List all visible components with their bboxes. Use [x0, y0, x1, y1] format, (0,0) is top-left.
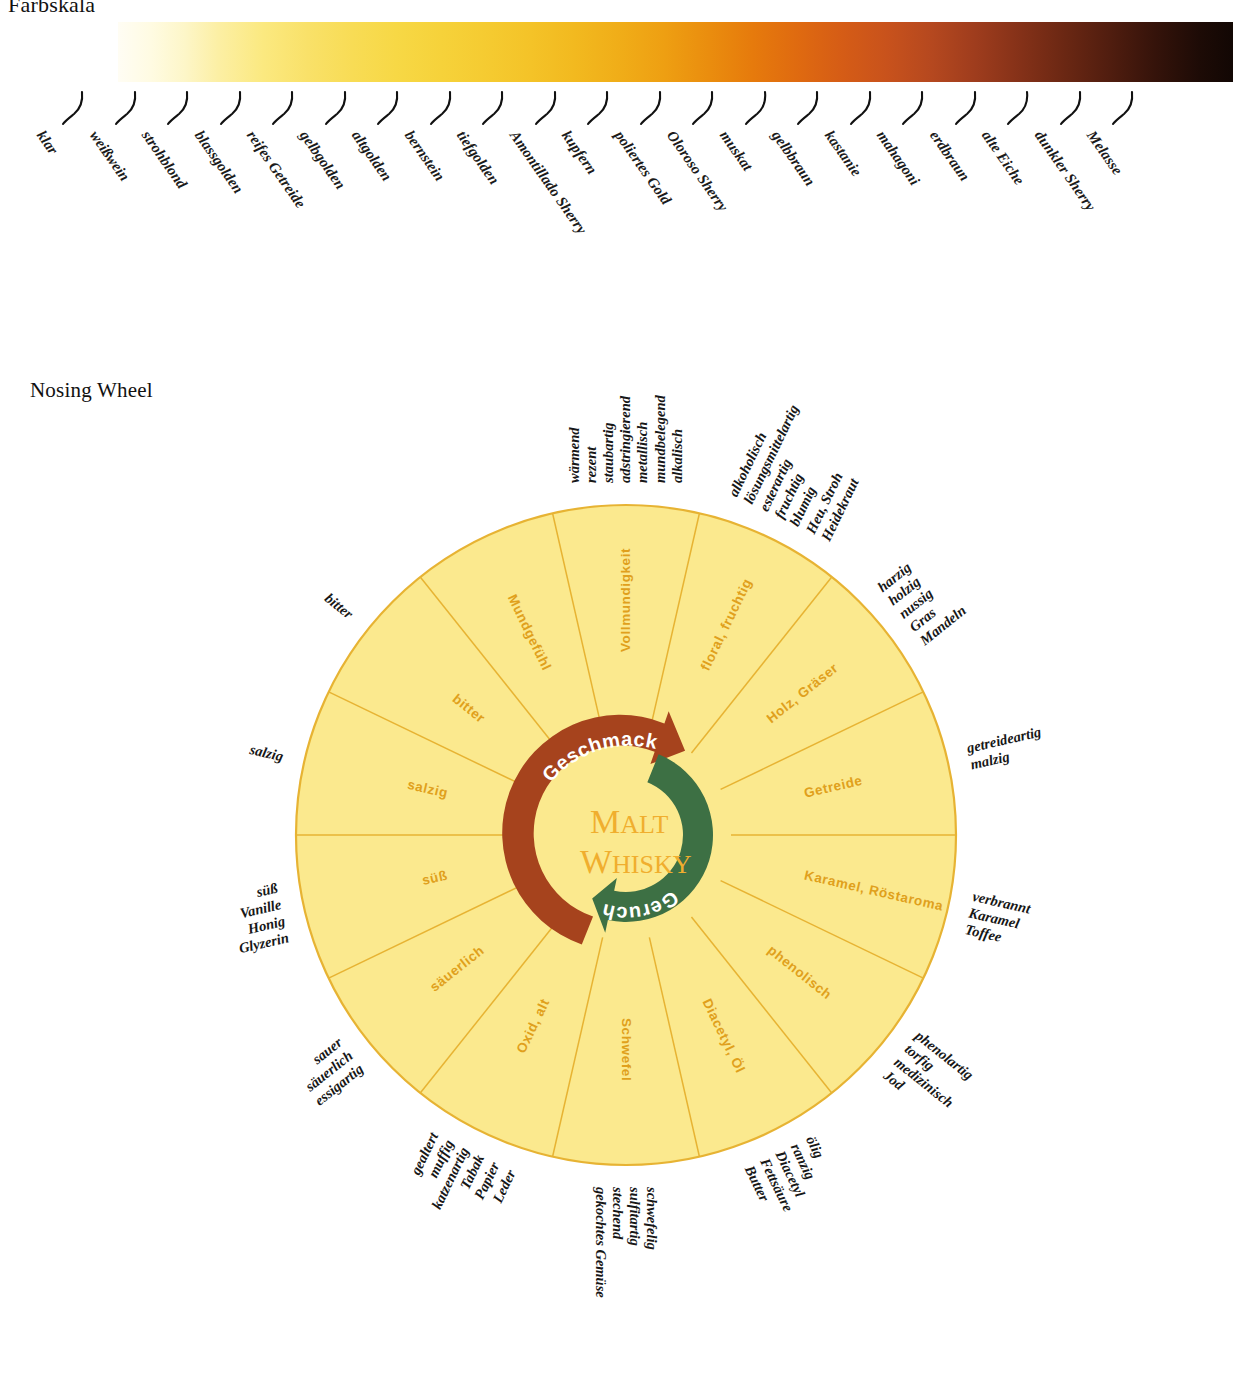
outer-label: mundbelegend	[652, 395, 669, 483]
colour-scale-tick	[850, 92, 872, 132]
outer-label: metallisch	[635, 395, 652, 483]
colour-scale-tick	[115, 92, 137, 132]
outer-label: staubartig	[600, 395, 617, 483]
outer-label: rezent	[583, 395, 600, 483]
colour-scale-label: bernstein	[401, 128, 448, 185]
colour-scale-label: kupfern	[558, 128, 600, 178]
nosing-wheel: Vollmundigkeitfloral, fruchtigHolz, Gräs…	[0, 300, 1253, 1373]
colour-scale-tick	[220, 92, 242, 132]
colour-scale-tick	[167, 92, 189, 132]
segment-label-Vollmundigkeit: Vollmundigkeit	[618, 548, 633, 652]
colour-scale-tick	[62, 92, 84, 132]
colour-scale-tick	[745, 92, 767, 132]
colour-scale-tick	[640, 92, 662, 132]
colour-scale-label: tiefgolden	[453, 128, 502, 188]
colour-scale-label: muskat	[716, 128, 756, 175]
colour-gradient-bar	[118, 22, 1233, 82]
colour-scale-tick	[1007, 92, 1029, 132]
outer-label: schwefelig	[643, 1187, 660, 1298]
outer-label-group-Vollmundigkeit: wärmendrezentstaubartigadstringierendmet…	[566, 395, 686, 483]
segment-label-Schwefel: Schwefel	[619, 1018, 634, 1081]
colour-scale-label: alte Eiche	[978, 128, 1028, 189]
colour-scale-tick	[587, 92, 609, 132]
colour-scale-label: kastanie	[821, 128, 865, 180]
outer-label: gekochtes Gemüse	[592, 1187, 609, 1298]
outer-label: adstringierend	[617, 395, 634, 483]
colour-scale-tick	[325, 92, 347, 132]
colour-scale-tick	[1060, 92, 1082, 132]
colour-scale-label: Melasse	[1083, 128, 1126, 179]
outer-label: sulfitartig	[626, 1187, 643, 1298]
colour-scale-label: gelbbraun	[768, 128, 818, 190]
colour-scale-label: strohblond	[138, 128, 190, 192]
colour-scale-label: mahagoni	[873, 128, 923, 189]
colour-scale-tick	[377, 92, 399, 132]
colour-scale-label: weißwein	[86, 128, 133, 185]
colour-scale-tick	[482, 92, 504, 132]
colour-scale-tick	[430, 92, 452, 132]
colour-scale-label: erdbraun	[926, 128, 973, 185]
colour-scale-label: gelbgolden	[296, 128, 349, 193]
colour-scale-tick	[272, 92, 294, 132]
colour-scale-tick	[692, 92, 714, 132]
outer-label: alkalisch	[669, 395, 686, 483]
colour-scale-tick	[797, 92, 819, 132]
colour-scale-tick	[1112, 92, 1134, 132]
outer-label-group-Schwefel: schwefeligsulfitartigstechendgekochtes G…	[592, 1187, 660, 1298]
colour-scale-block: klarweißweinstrohblondblassgoldenreifes …	[0, 0, 1253, 300]
outer-label: wärmend	[566, 395, 583, 483]
outer-label: stechend	[609, 1187, 626, 1298]
colour-scale-tick	[955, 92, 977, 132]
colour-scale-label: blassgolden	[191, 128, 247, 197]
colour-scale-label: altgolden	[348, 128, 395, 185]
colour-scale-tick	[535, 92, 557, 132]
colour-scale-tick	[902, 92, 924, 132]
colour-scale-label: klar	[33, 128, 61, 158]
